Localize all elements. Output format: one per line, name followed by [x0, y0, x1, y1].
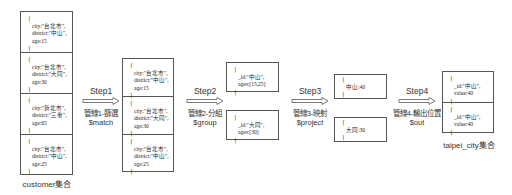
step2: Step2 管線2-分組 $group — [180, 86, 230, 127]
step2-label: 管線2-分組 — [180, 107, 230, 118]
step3-label: 管線3-映射 — [285, 107, 335, 118]
customer-doc-2: { city:"台北市", district:"大同", age:30 } — [21, 53, 72, 94]
step2-operator: $group — [180, 118, 230, 127]
step1-title: Step1 — [76, 86, 126, 97]
customer-doc-1: { city:"台北市", district:"中山", age:15 } — [21, 12, 72, 53]
step4-label: 管線4-輸出位置 — [388, 107, 446, 118]
customer-doc-3: { city:"新北市", district:"三重", age:65 } — [21, 94, 72, 135]
match-doc-2: { city:"台北市", district:"大同", age:30 } — [123, 97, 173, 135]
taipei-city-caption: taipei_city集合 — [436, 139, 502, 150]
step1: Step1 管線1-篩選 $match — [76, 86, 126, 127]
step1-label: 管線1-篩選 — [76, 107, 126, 118]
step3-operator: $project — [285, 118, 335, 127]
right-arrow-icon — [398, 97, 436, 105]
match-result: { city:"台北市", district:"中山", age:15 } { … — [122, 58, 174, 172]
step3-title: Step3 — [285, 86, 335, 97]
step4-title: Step4 — [388, 86, 446, 97]
taipei-city-doc-1: { _id:"中山", value:40 } — [443, 72, 493, 103]
step3: Step3 管線3-映射 $project — [285, 86, 335, 127]
step2-title: Step2 — [180, 86, 230, 97]
project-doc-1: { 中山:40 } — [334, 74, 387, 99]
customer-doc-4: { city:"台北市", district:"中山", age:25 } — [21, 135, 72, 176]
right-arrow-icon — [82, 97, 120, 105]
customer-collection: { city:"台北市", district:"中山", age:15 } { … — [20, 11, 73, 175]
customer-caption: customer集合 — [14, 178, 80, 189]
project-doc-2: { 大同:30 } — [334, 117, 387, 142]
step1-operator: $match — [76, 118, 126, 127]
taipei-city-doc-2: { _id:"中山", value:40 } — [443, 103, 493, 134]
right-arrow-icon — [291, 97, 329, 105]
step4: Step4 管線4-輸出位置 $out — [388, 86, 446, 127]
taipei-city-collection: { _id:"中山", value:40 } { _id:"中山", value… — [442, 71, 494, 133]
right-arrow-icon — [186, 97, 224, 105]
group-doc-2: { _id:"大同", ages:[30] } — [226, 110, 279, 140]
group-doc-1: { _id:"中山", ages:[15,25] } — [226, 62, 279, 92]
match-doc-3: { city:"台北市", district:"中山", age:25 } — [123, 135, 173, 173]
match-doc-1: { city:"台北市", district:"中山", age:15 } — [123, 59, 173, 97]
step4-operator: $out — [388, 118, 446, 127]
